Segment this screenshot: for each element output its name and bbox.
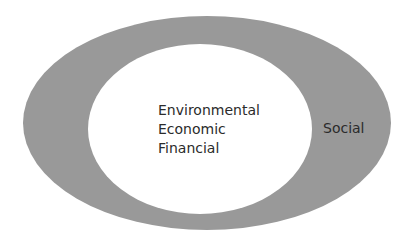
label-economic: Economic: [158, 120, 260, 139]
label-financial: Financial: [158, 139, 260, 158]
label-environmental: Environmental: [158, 101, 260, 120]
label-social: Social: [323, 119, 365, 138]
inner-ellipse-labels: Environmental Economic Financial: [158, 101, 260, 158]
